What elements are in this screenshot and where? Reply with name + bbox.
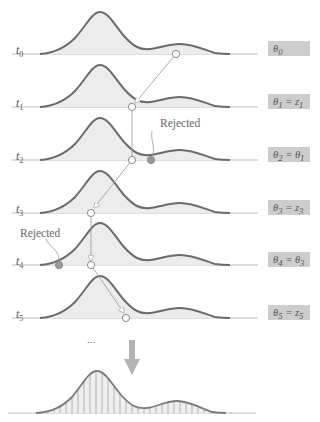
state-label-theta0: θ0 [268,41,310,56]
mcmc-diagram: t0 t1 t2 t3 t4 t5 θ0 θ1 = z1 θ2 = θ1 θ3 … [0,0,320,422]
down-arrow-icon [124,340,140,375]
rejected-point-t2 [147,156,154,163]
row-t1 [12,65,258,107]
state-label-theta3: θ3 = z3 [268,200,310,215]
sample-point-t5 [122,314,129,321]
ellipsis: ... [87,334,95,345]
time-label-t2: t2 [16,149,23,165]
state-label-theta5: θ5 = z5 [268,305,310,320]
row-t0 [12,12,258,54]
rejected-label-2: Rejected [20,227,60,239]
sample-point-t2 [128,156,135,163]
row-t5 [12,276,258,318]
time-label-t1: t1 [16,96,23,112]
time-label-t0: t0 [16,43,23,59]
state-label-theta4: θ4 = θ3 [268,252,310,267]
proposal-arrow-1 [135,54,176,103]
rejected-leader-2 [46,239,59,262]
sample-point-t0 [172,50,179,57]
row-t2 [12,118,258,160]
sample-point-t3 [87,209,94,216]
time-label-t3: t3 [16,202,23,218]
sample-point-t1 [128,103,135,110]
time-label-t4: t4 [16,254,23,270]
state-label-theta1: θ1 = z1 [268,94,310,109]
sample-point-t4 [87,261,94,268]
rejected-point-t4 [55,261,62,268]
rejected-label-1: Rejected [160,117,200,129]
histogram-result [8,371,256,413]
state-label-theta2: θ2 = θ1 [268,147,310,162]
time-label-t5: t5 [16,307,23,323]
row-t3 [12,171,258,213]
